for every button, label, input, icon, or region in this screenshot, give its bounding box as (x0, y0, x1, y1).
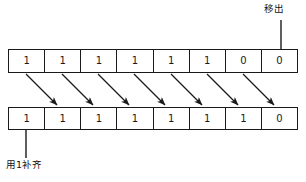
diagram-lines-layer (0, 0, 306, 182)
shift-arrow-group (26, 74, 274, 105)
top-bit-cell: 1 (154, 50, 190, 72)
shift-arrow-2 (62, 74, 93, 105)
top-bit-cell: 1 (45, 50, 81, 72)
top-bit-cell: 0 (262, 50, 297, 72)
top-bit-cell: 0 (226, 50, 262, 72)
top-bit-cell: 1 (81, 50, 117, 72)
bottom-bit-cell: 1 (117, 108, 153, 129)
shift-arrow-3 (98, 74, 129, 105)
top-register: 1 1 1 1 1 1 0 0 (8, 49, 298, 73)
fill-ones-label: 用1补齐 (6, 160, 42, 171)
bottom-bit-cell: 1 (190, 108, 226, 129)
shift-register-diagram: 1 1 1 1 1 1 0 0 1 1 1 1 1 1 1 0 移出 用1补齐 (0, 0, 306, 182)
shift-arrow-1 (26, 74, 57, 105)
shift-arrow-4 (134, 74, 165, 105)
bottom-bit-cell: 1 (81, 108, 117, 129)
bottom-bit-cell: 1 (45, 108, 81, 129)
bottom-bit-cell: 1 (9, 108, 45, 129)
top-bit-cell: 1 (9, 50, 45, 72)
shift-arrow-5 (171, 74, 202, 105)
shift-out-label: 移出 (264, 4, 284, 15)
top-bit-cell: 1 (117, 50, 153, 72)
shift-arrow-6 (207, 74, 238, 105)
bottom-register: 1 1 1 1 1 1 1 0 (8, 107, 298, 130)
bottom-bit-cell: 1 (154, 108, 190, 129)
bottom-bit-cell: 0 (262, 108, 297, 129)
bottom-bit-cell: 1 (226, 108, 262, 129)
top-bit-cell: 1 (190, 50, 226, 72)
shift-arrow-7 (243, 74, 274, 105)
